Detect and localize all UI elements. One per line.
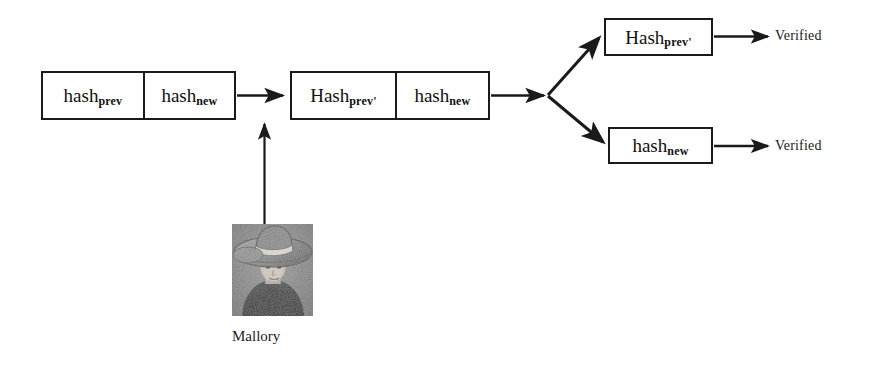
cell-verify-hash-prev-subscript: prev' <box>664 36 691 48</box>
arrow-fork-lower <box>548 96 603 142</box>
cell-hash-new: hashnew <box>143 73 234 118</box>
cell-forged-hash-prev-text: Hash <box>310 86 349 105</box>
cell-forged-hash-prev-subscript: prev' <box>349 95 376 107</box>
verify-hash-new-block: hashnew <box>608 127 713 164</box>
original-chain-block: hashprev hashnew <box>41 71 236 120</box>
mallory-photo <box>232 224 313 316</box>
forged-chain-block: Hashprev' hashnew <box>290 71 490 120</box>
cell-verify-hash-new-subscript: new <box>667 145 688 157</box>
cell-forged-hash-new: hashnew <box>395 73 488 118</box>
cell-verify-hash-prev-text: Hash <box>625 28 664 47</box>
cell-verify-hash-new: hashnew <box>610 129 711 162</box>
cell-hash-new-subscript: new <box>196 95 217 107</box>
mallory-label: Mallory <box>232 328 322 345</box>
cell-verify-hash-prev: Hashprev' <box>606 20 711 54</box>
diagram-canvas: hashprev hashnew Hashprev' hashnew Hashp… <box>0 0 871 370</box>
cell-forged-hash-prev: Hashprev' <box>292 73 395 118</box>
arrow-fork-upper <box>548 38 599 95</box>
connector-layer <box>0 0 871 370</box>
verified-label-top: Verified <box>775 28 822 44</box>
cell-forged-hash-new-subscript: new <box>449 95 470 107</box>
cell-hash-new-text: hash <box>161 86 196 105</box>
cell-hash-prev-text: hash <box>64 86 99 105</box>
verify-hash-prev-block: Hashprev' <box>604 18 713 56</box>
cell-verify-hash-new-text: hash <box>632 136 667 155</box>
cell-forged-hash-new-text: hash <box>414 86 449 105</box>
cell-hash-prev-subscript: prev <box>98 95 122 107</box>
cell-hash-prev: hashprev <box>43 73 143 118</box>
verified-label-bottom: Verified <box>775 138 822 154</box>
